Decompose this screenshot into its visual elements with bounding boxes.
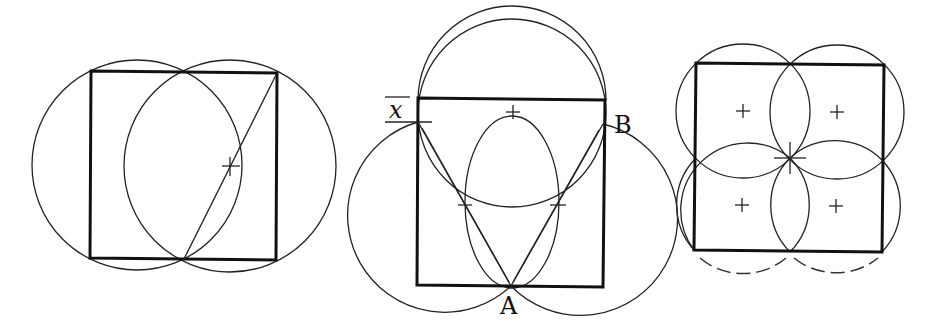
square — [90, 71, 277, 260]
square — [417, 98, 605, 287]
left-circle — [32, 60, 242, 270]
plus-mark-top-right — [830, 105, 844, 119]
upper-circle — [418, 19, 606, 207]
figure-1 — [32, 60, 336, 272]
center-cross-mark — [222, 157, 240, 176]
plus-mark-top-left — [736, 104, 750, 118]
label-B: B — [614, 111, 632, 139]
middle-circle — [465, 116, 559, 288]
bottom-left-dashed-arc — [700, 258, 786, 274]
label-x: x — [389, 96, 403, 124]
bottom-right-dashed-arc — [794, 258, 878, 273]
label-A: A — [499, 292, 518, 320]
figure-2: x B A — [348, 6, 678, 320]
plus-mark-bottom-right — [829, 199, 843, 213]
plus-mark-bottom-left — [735, 198, 749, 212]
figure-3 — [676, 44, 904, 274]
top-semicircle — [418, 6, 606, 100]
geometry-diagram: x B A — [0, 0, 932, 325]
